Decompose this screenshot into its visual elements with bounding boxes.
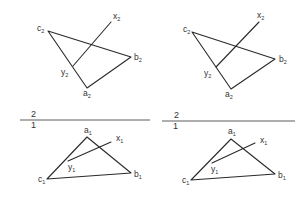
label-y2: y2 bbox=[61, 67, 68, 78]
label-a2: a2 bbox=[225, 89, 233, 100]
triangle-abc-view2 bbox=[48, 31, 131, 88]
label-a1: a1 bbox=[84, 125, 92, 136]
right-panel: c2 x2 b2 a2 y2 2 1 a1 x1 y1 c1 b1 bbox=[162, 10, 295, 186]
left-panel: c2 x2 b2 a2 y2 2 1 a1 x1 y1 c1 b1 bbox=[20, 11, 150, 185]
axis-label-1: 1 bbox=[31, 120, 36, 130]
label-b2: b2 bbox=[279, 54, 287, 65]
right-upper-view: c2 x2 b2 a2 y2 bbox=[183, 10, 287, 100]
label-y2: y2 bbox=[204, 68, 211, 79]
left-lower-view: a1 x1 y1 c1 b1 bbox=[38, 125, 142, 185]
axis-label-2: 2 bbox=[174, 110, 179, 120]
label-c2: c2 bbox=[37, 23, 44, 34]
label-b1: b1 bbox=[134, 169, 142, 180]
right-lower-view: a1 x1 y1 c1 b1 bbox=[182, 126, 286, 186]
line-xy-view2 bbox=[73, 22, 111, 66]
triangle-abc-view1 bbox=[191, 139, 275, 180]
label-c1: c1 bbox=[38, 174, 45, 185]
label-c1: c1 bbox=[182, 175, 189, 186]
label-x2: x2 bbox=[257, 10, 264, 21]
label-b2: b2 bbox=[134, 52, 142, 63]
left-upper-view: c2 x2 b2 a2 y2 bbox=[37, 11, 142, 99]
label-a2: a2 bbox=[83, 88, 91, 99]
label-c2: c2 bbox=[183, 24, 190, 35]
label-x1: x1 bbox=[116, 133, 123, 144]
axis-label-1: 1 bbox=[173, 121, 178, 131]
label-b1: b1 bbox=[278, 170, 286, 181]
label-a1: a1 bbox=[228, 126, 236, 137]
triangle-abc-view2 bbox=[192, 32, 275, 89]
axis-label-2: 2 bbox=[31, 109, 36, 119]
triangle-abc-view1 bbox=[47, 137, 131, 179]
label-x2: x2 bbox=[113, 11, 120, 22]
line-xy-view2 bbox=[216, 22, 259, 67]
label-y1: y1 bbox=[68, 162, 75, 173]
projection-diagram: c2 x2 b2 a2 y2 2 1 a1 x1 y1 c1 b1 c2 x2 bbox=[0, 0, 305, 201]
label-y1: y1 bbox=[211, 164, 218, 175]
label-x1: x1 bbox=[260, 135, 267, 146]
